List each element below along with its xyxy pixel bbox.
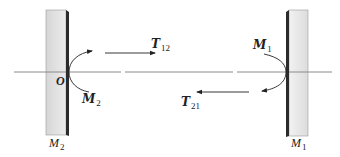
transfer-label-forward: T12: [151, 37, 170, 53]
right-mirror: [286, 10, 308, 137]
optical-diagram: [0, 0, 340, 157]
left-mirror: [46, 10, 69, 136]
moment-label-left: M2: [82, 92, 101, 108]
moment-label-right: M1: [253, 38, 272, 54]
mirror-label-right: M1: [291, 136, 307, 152]
transfer-label-backward: T21: [181, 95, 200, 111]
origin-label: O: [56, 74, 65, 89]
mirror-label-left: M2: [49, 136, 65, 152]
